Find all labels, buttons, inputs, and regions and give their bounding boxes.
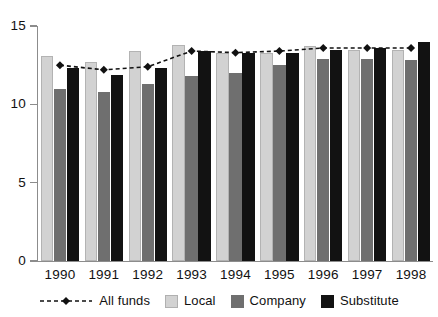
y-tick-label: 5 xyxy=(0,176,26,190)
all-funds-marker-1991 xyxy=(100,66,108,74)
x-axis-line xyxy=(37,261,433,262)
all-funds-marker-1996 xyxy=(319,44,327,52)
y-tick-mark xyxy=(30,104,37,105)
all-funds-line-series xyxy=(38,26,433,261)
x-tick-label-1998: 1998 xyxy=(386,267,436,282)
all-funds-marker-1994 xyxy=(232,49,240,57)
x-tick-label-1993: 1993 xyxy=(167,267,217,282)
square-swatch-icon xyxy=(321,295,334,308)
all-funds-marker-1990 xyxy=(56,61,64,69)
square-swatch-icon xyxy=(165,295,178,308)
x-tick-label-1995: 1995 xyxy=(254,267,304,282)
legend-item-company[interactable]: Company xyxy=(231,294,306,308)
grouped-bar-chart: 151050 199019911992199319941995199619971… xyxy=(0,0,438,317)
y-tick-label: 10 xyxy=(0,97,26,111)
all-funds-marker-1993 xyxy=(188,47,196,55)
all-funds-marker-1998 xyxy=(407,44,415,52)
y-tick-label: 0 xyxy=(0,254,26,268)
all-funds-marker-1997 xyxy=(363,44,371,52)
legend-label: Substitute xyxy=(340,294,399,308)
x-tick-label-1991: 1991 xyxy=(79,267,129,282)
plot-area xyxy=(38,26,433,261)
y-tick-mark xyxy=(30,25,37,26)
legend-item-substitute[interactable]: Substitute xyxy=(321,294,399,308)
x-tick-label-1990: 1990 xyxy=(35,267,85,282)
x-tick-label-1992: 1992 xyxy=(123,267,173,282)
y-tick-mark xyxy=(30,182,37,183)
chart-legend: All fundsLocalCompanySubstitute xyxy=(0,290,438,312)
all-funds-marker-1995 xyxy=(275,47,283,55)
y-tick-mark xyxy=(30,260,37,261)
x-tick-label-1996: 1996 xyxy=(298,267,348,282)
y-tick-label: 15 xyxy=(0,19,26,33)
legend-label: Local xyxy=(184,294,216,308)
x-tick-label-1997: 1997 xyxy=(342,267,392,282)
square-swatch-icon xyxy=(231,295,244,308)
x-tick-label-1994: 1994 xyxy=(211,267,261,282)
dashed-line-diamond-icon xyxy=(39,295,93,307)
legend-item-local[interactable]: Local xyxy=(165,294,216,308)
legend-label: Company xyxy=(250,294,306,308)
all-funds-marker-1992 xyxy=(144,63,152,71)
legend-item-all-funds[interactable]: All funds xyxy=(39,294,150,308)
legend-label: All funds xyxy=(99,294,150,308)
